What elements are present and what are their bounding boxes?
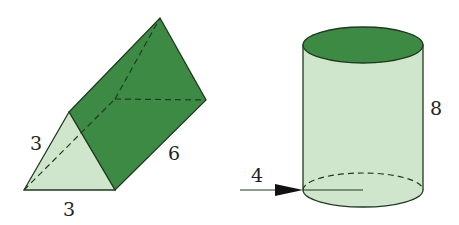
label-base-3: 3 xyxy=(63,198,75,220)
cylinder-body xyxy=(303,45,423,207)
triangular-prism: 3 3 6 xyxy=(24,18,206,220)
label-radius-4: 4 xyxy=(251,164,263,186)
label-length-6: 6 xyxy=(168,142,180,164)
geometry-figure: 3 3 6 4 8 xyxy=(0,0,459,225)
cylinder-top xyxy=(303,27,423,63)
arrow-head-icon xyxy=(275,184,303,196)
label-side-3: 3 xyxy=(30,132,42,154)
label-height-8: 8 xyxy=(430,97,442,119)
cylinder: 4 8 xyxy=(240,27,442,207)
